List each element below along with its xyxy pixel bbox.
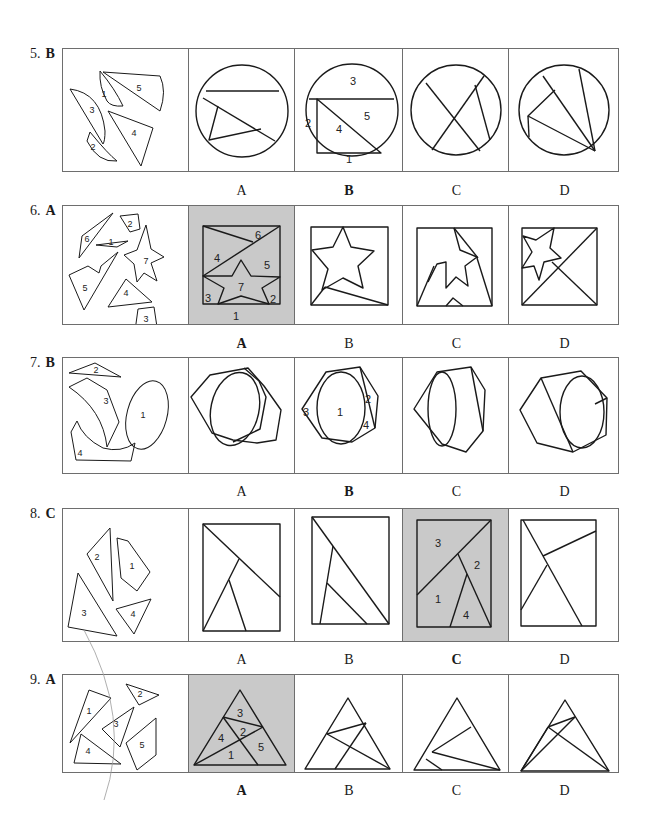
option-labels: ABCD [62, 484, 619, 500]
puzzle-pieces-cell: 15324 [63, 49, 189, 171]
option-cell-a[interactable] [189, 358, 296, 473]
piece-number: 3 [350, 75, 356, 87]
piece-number: 5 [136, 83, 141, 93]
piece-number: 1 [227, 749, 233, 761]
option-cell-c[interactable] [403, 49, 510, 171]
option-label-d: D [510, 183, 619, 199]
option-cell-b[interactable] [295, 509, 403, 641]
piece-number: 1 [108, 237, 113, 247]
option-cell-b[interactable] [295, 206, 403, 324]
pieces-figure: 2134 [63, 509, 189, 641]
piece-number: 1 [101, 89, 106, 99]
shape-outline [325, 287, 388, 305]
option-cell-b[interactable]: 32451 [295, 49, 403, 171]
option-cell-c[interactable] [403, 358, 510, 473]
shape-outline [124, 225, 164, 282]
option-label-c: C [403, 783, 510, 799]
option-cell-c[interactable] [403, 206, 510, 324]
option-cell-a[interactable] [189, 49, 296, 171]
piece-number: 2 [269, 293, 275, 305]
shape-outline [311, 287, 325, 305]
shape-outline [428, 228, 477, 288]
answer-key-letter: A [46, 203, 56, 218]
option-figure: 32451 [295, 49, 403, 171]
shape-outline [428, 372, 456, 446]
shape-outline [119, 376, 176, 454]
shape-outline [320, 546, 333, 624]
puzzle-pieces-cell: 6217543 [63, 206, 189, 324]
option-cell-b[interactable] [295, 675, 403, 772]
piece-number: 4 [363, 419, 369, 431]
piece-number: 2 [239, 726, 245, 738]
option-label-d: D [510, 336, 619, 352]
shape-outline [68, 573, 117, 636]
option-cell-b[interactable]: 3124 [295, 358, 403, 473]
label-spacer [62, 183, 188, 199]
label-spacer [62, 652, 188, 668]
pieces-figure: 15324 [63, 49, 189, 171]
piece-number: 5 [82, 283, 87, 293]
option-figure: 6457321 [189, 206, 296, 324]
piece-number: 4 [213, 252, 219, 264]
option-cell-a[interactable]: 32415 [189, 675, 296, 772]
shape-outline [327, 734, 390, 769]
option-figure [509, 509, 618, 641]
option-label-b: B [295, 652, 403, 668]
option-label-b: B [295, 336, 403, 352]
option-cell-c[interactable]: 3214 [403, 509, 510, 641]
piece-number: 2 [93, 365, 98, 375]
piece-number: 2 [90, 142, 95, 152]
question-number: 5.B [30, 46, 55, 62]
piece-number: 1 [129, 561, 134, 571]
piece-number: 5 [139, 740, 144, 750]
option-figure [189, 358, 296, 473]
shape-outline [521, 565, 547, 610]
figure-grid: 21343214 [62, 508, 619, 642]
pieces-figure: 12345 [63, 675, 189, 772]
piece-number: 4 [77, 448, 82, 458]
option-cell-d[interactable] [509, 358, 618, 473]
piece-number: 4 [131, 128, 136, 138]
option-label-c: C [403, 652, 510, 668]
option-cell-c[interactable] [403, 675, 510, 772]
option-figure [403, 49, 510, 171]
shape-outline [475, 85, 490, 140]
piece-number: 4 [463, 609, 469, 621]
option-cell-a[interactable] [189, 509, 296, 641]
piece-number: 3 [143, 314, 148, 324]
option-cell-a[interactable]: 6457321 [189, 206, 296, 324]
piece-number: 6 [254, 229, 260, 241]
shape-outline [417, 520, 491, 627]
option-labels: ABCD [62, 652, 619, 668]
option-figure [189, 509, 296, 641]
shape-outline [196, 65, 288, 157]
shape-outline [203, 368, 265, 450]
option-cell-d[interactable] [509, 49, 618, 171]
option-figure [403, 358, 510, 473]
option-cell-d[interactable] [509, 675, 618, 772]
piece-number: 4 [85, 746, 90, 756]
piece-number: 5 [263, 259, 269, 271]
option-cell-d[interactable] [509, 206, 618, 324]
shape-outline [521, 700, 609, 771]
figure-grid: 1532432451 [62, 48, 619, 172]
shape-outline [69, 378, 119, 447]
shape-outline [519, 65, 609, 155]
shape-outline [541, 378, 573, 452]
question-number-label: 9. [30, 672, 41, 687]
option-figure [509, 206, 618, 324]
option-figure [403, 675, 510, 772]
piece-number: 3 [81, 608, 86, 618]
figure-grid: 62175436457321 [62, 205, 619, 325]
piece-number: 7 [237, 281, 243, 293]
piece-number: 3 [204, 292, 210, 304]
shape-outline [312, 227, 374, 290]
label-spacer [62, 336, 188, 352]
option-cell-d[interactable] [509, 509, 618, 641]
piece-number: 3 [435, 537, 441, 549]
shape-outline [108, 111, 153, 166]
piece-number: 5 [364, 110, 370, 122]
option-figure: 3124 [295, 358, 403, 473]
shape-outline [203, 524, 280, 597]
option-label-d: D [510, 484, 619, 500]
